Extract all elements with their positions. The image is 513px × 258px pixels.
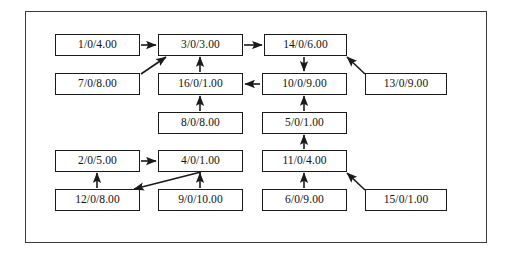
node-n2[interactable]: 2/0/5.00 (55, 150, 140, 172)
node-n6[interactable]: 6/0/9.00 (262, 189, 347, 211)
node-label: 5/0/1.00 (285, 117, 324, 129)
diagram-canvas: 1/0/4.003/0/3.0014/0/6.007/0/8.0016/0/1.… (0, 0, 513, 258)
node-label: 6/0/9.00 (285, 194, 324, 206)
node-n1[interactable]: 1/0/4.00 (55, 34, 140, 56)
node-label: 15/0/1.00 (384, 194, 429, 206)
node-label: 4/0/1.00 (181, 155, 220, 167)
node-n3[interactable]: 3/0/3.00 (158, 34, 243, 56)
node-n13[interactable]: 13/0/9.00 (365, 73, 447, 95)
node-label: 2/0/5.00 (78, 155, 117, 167)
node-label: 8/0/8.00 (181, 117, 220, 129)
node-n16[interactable]: 16/0/1.00 (158, 73, 243, 95)
node-n11[interactable]: 11/0/4.00 (262, 150, 347, 172)
node-n7[interactable]: 7/0/8.00 (55, 73, 140, 95)
node-label: 10/0/9.00 (282, 78, 327, 90)
node-n8[interactable]: 8/0/8.00 (158, 112, 243, 134)
node-n12[interactable]: 12/0/8.00 (55, 189, 140, 211)
node-label: 11/0/4.00 (282, 155, 326, 167)
node-label: 14/0/6.00 (283, 39, 328, 51)
node-n15[interactable]: 15/0/1.00 (365, 189, 447, 211)
node-n9[interactable]: 9/0/10.00 (158, 189, 243, 211)
node-label: 3/0/3.00 (181, 39, 220, 51)
node-label: 16/0/1.00 (178, 78, 223, 90)
node-n10[interactable]: 10/0/9.00 (262, 73, 347, 95)
node-label: 1/0/4.00 (78, 39, 117, 51)
node-label: 7/0/8.00 (78, 78, 117, 90)
node-label: 13/0/9.00 (384, 78, 429, 90)
node-n5[interactable]: 5/0/1.00 (262, 112, 347, 134)
node-n4[interactable]: 4/0/1.00 (158, 150, 243, 172)
node-n14[interactable]: 14/0/6.00 (264, 34, 347, 56)
node-label: 9/0/10.00 (178, 194, 223, 206)
node-label: 12/0/8.00 (75, 194, 120, 206)
